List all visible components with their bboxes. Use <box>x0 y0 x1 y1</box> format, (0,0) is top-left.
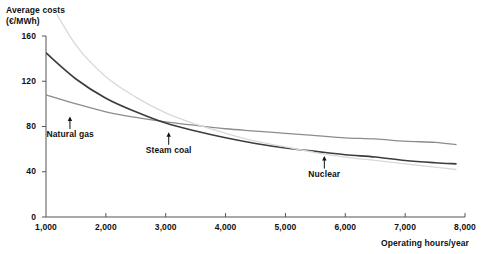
y-tick-label: 160 <box>6 31 36 41</box>
y-tick-label: 120 <box>6 76 36 86</box>
annotation-arrow-natural-gas <box>68 116 72 129</box>
x-tick-label: 6,000 <box>325 222 365 232</box>
series-label-nuclear: Nuclear <box>308 169 340 179</box>
x-tick-label: 1,000 <box>26 222 66 232</box>
x-tick-label: 2,000 <box>86 222 126 232</box>
series-lines <box>46 0 456 169</box>
x-tick-label: 8,000 <box>445 222 484 232</box>
series-label-natural-gas: Natural gas <box>46 129 93 139</box>
annotation-arrow-nuclear <box>322 156 326 169</box>
series-line-natural-gas <box>46 95 456 145</box>
y-tick-label: 0 <box>6 212 36 222</box>
axis-lines <box>46 36 465 217</box>
y-tick-marks <box>42 36 46 217</box>
series-line-nuclear <box>46 0 456 169</box>
x-tick-marks <box>106 213 465 217</box>
series-line-steam-coal <box>46 53 456 164</box>
x-tick-label: 4,000 <box>206 222 246 232</box>
y-tick-label: 80 <box>6 121 36 131</box>
x-tick-label: 5,000 <box>265 222 305 232</box>
y-tick-label: 40 <box>6 166 36 176</box>
annotation-arrow-steam-coal <box>167 132 171 145</box>
plot-area <box>0 0 484 254</box>
series-label-steam-coal: Steam coal <box>146 145 192 155</box>
x-tick-label: 3,000 <box>146 222 186 232</box>
x-tick-label: 7,000 <box>385 222 425 232</box>
chart-container: Average costs (€/MWh) Operating hours/ye… <box>0 0 484 254</box>
